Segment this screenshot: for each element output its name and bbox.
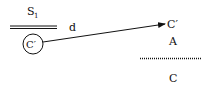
svg-text:1: 1 bbox=[34, 12, 38, 20]
arrow-line bbox=[43, 24, 165, 42]
circle-c-prime: C′ bbox=[23, 34, 43, 54]
c-label: C bbox=[169, 72, 177, 85]
target-c-prime-label: C′ bbox=[167, 18, 178, 31]
circle-label: C′ bbox=[26, 39, 37, 50]
diagram-canvas: S 1 d C′ C′ A C bbox=[0, 0, 213, 86]
a-label: A bbox=[168, 35, 178, 48]
d-label: d bbox=[69, 21, 76, 34]
s1-label: S 1 bbox=[27, 5, 38, 20]
double-line-surface bbox=[10, 26, 57, 29]
